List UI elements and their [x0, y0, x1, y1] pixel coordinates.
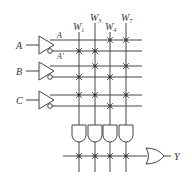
and-output-lines — [79, 142, 126, 172]
inverter-bubble-icon — [48, 75, 53, 80]
word-lines — [79, 23, 126, 125]
label-w1: W1 — [73, 21, 84, 33]
and-plane-connections — [76, 37, 129, 109]
and-gate-icon — [88, 125, 102, 142]
and-gate-icon — [103, 125, 117, 142]
and-gate-icon — [119, 125, 133, 142]
label-w3: W3 — [90, 12, 101, 24]
word-line-labels: W1 W3 W4 W7 — [73, 12, 133, 33]
line-label-a-comp: A' — [56, 52, 64, 61]
label-w7: W7 — [121, 12, 133, 24]
output-label-y: Y — [174, 151, 181, 162]
inverter-bubble-icon — [48, 49, 53, 54]
input-label-b: B — [16, 66, 22, 77]
and-gate-icon — [72, 125, 86, 142]
or-gate-icon — [146, 148, 164, 164]
pla-logic-diagram: W1 W3 W4 W7 A A A' B C — [0, 0, 192, 186]
input-label-a: A — [15, 40, 23, 51]
and-gates — [72, 125, 133, 142]
inverter-bubble-icon — [48, 104, 53, 109]
input-label-c: C — [16, 95, 23, 106]
label-w4: W4 — [105, 21, 116, 33]
line-label-a: A — [56, 31, 62, 40]
